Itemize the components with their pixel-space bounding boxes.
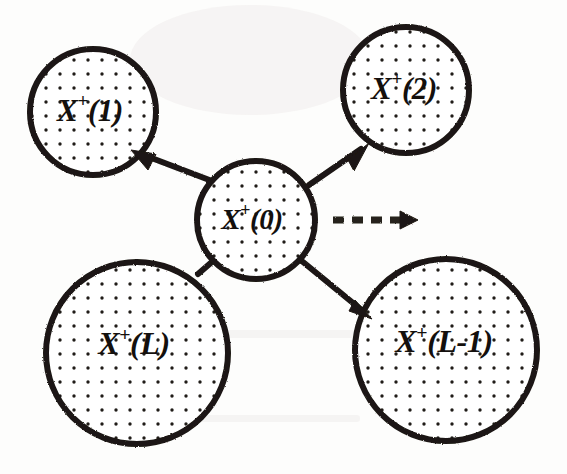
node-x-plus-1-arg: (1) xyxy=(88,93,123,128)
node-x-plus-0-superscript: + xyxy=(240,200,250,220)
node-x-plus-1-base: X xyxy=(56,93,79,128)
edge-center-to-l xyxy=(198,261,213,274)
figure-root: X+(1) X+(2) X+(L) xyxy=(0,0,567,474)
node-x-plus-l-superscript: + xyxy=(119,323,130,345)
node-x-plus-l[interactable]: X+(L) xyxy=(46,262,228,444)
node-x-plus-l-arg: (L) xyxy=(130,325,170,361)
node-x-plus-0-base: X xyxy=(220,203,241,235)
node-x-plus-2-base: X xyxy=(370,71,393,106)
node-x-plus-l-minus-1[interactable]: X+(L-1) xyxy=(355,259,537,441)
node-x-plus-l-minus-1-arg: (L-1) xyxy=(427,323,493,359)
node-x-plus-2[interactable]: X+(2) xyxy=(343,27,469,153)
node-x-plus-l-minus-1-superscript: + xyxy=(416,321,427,343)
node-x-plus-l-minus-1-label: X+(L-1) xyxy=(394,321,492,360)
node-x-plus-2-label: X+(2) xyxy=(370,68,437,106)
node-x-plus-0[interactable]: X+(0) xyxy=(197,161,315,279)
dashed-outward-arrow xyxy=(333,211,418,229)
node-x-plus-1-label: X+(1) xyxy=(56,90,123,128)
node-x-plus-0-arg: (0) xyxy=(250,203,283,236)
node-x-plus-l-label: X+(L) xyxy=(97,323,170,362)
node-x-plus-0-label: X+(0) xyxy=(220,200,282,236)
node-x-plus-l-minus-1-base: X xyxy=(394,323,417,359)
node-x-plus-1-superscript: + xyxy=(77,90,88,111)
arrowhead-outward xyxy=(400,211,418,229)
node-x-plus-l-base: X xyxy=(97,325,120,361)
node-diagram-svg: X+(1) X+(2) X+(L) xyxy=(0,0,567,474)
node-x-plus-2-superscript: + xyxy=(391,68,402,89)
node-x-plus-2-arg: (2) xyxy=(402,71,437,106)
